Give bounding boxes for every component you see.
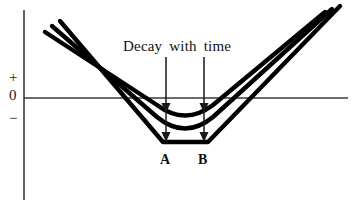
point-label-a: A — [160, 152, 170, 168]
decay-curve-deep — [60, 6, 340, 142]
point-label-b: B — [198, 152, 207, 168]
plot-canvas — [0, 0, 355, 212]
axis-label-negative: − — [9, 111, 17, 126]
decay-curve-middle — [52, 9, 332, 129]
axis-label-positive: + — [9, 70, 17, 85]
annotation-label-decay-with-time: Decay with time — [123, 38, 231, 55]
decay-with-time-figure: + 0 − Decay with time A B — [0, 0, 355, 212]
axis-label-zero: 0 — [9, 88, 17, 103]
